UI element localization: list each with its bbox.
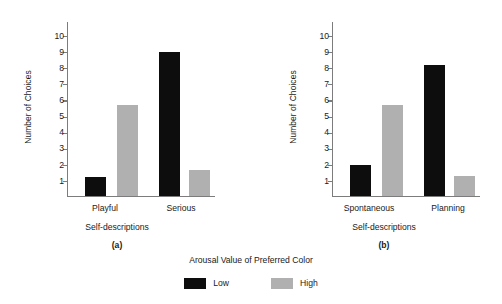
- panel-a-y-axis-line: [67, 22, 68, 197]
- panel-a-plot-area: 10 9 8 7 6 5 4 3 2 1: [67, 22, 215, 197]
- panel-b-x-axis-label: Self-descriptions: [279, 222, 489, 232]
- panel-a-yticklabel-8: 8: [42, 64, 64, 73]
- panel-a-yticklabel-4: 4: [42, 128, 64, 137]
- legend-item-high: High: [271, 278, 318, 289]
- panel-a-bar-serious-high: [189, 170, 210, 196]
- panel-a-y-axis-label: Number of Choices: [23, 37, 33, 177]
- panel-b-y-axis-label: Number of Choices: [288, 37, 298, 177]
- panel-b-bar-spontaneous-low: [350, 165, 371, 196]
- panel-b-yticklabel-5: 5: [307, 112, 329, 121]
- panel-a-yticklabel-7: 7: [42, 80, 64, 89]
- panel-a-yticklabel-2: 2: [42, 161, 64, 170]
- panel-a-yticklabel-1: 1: [42, 177, 64, 186]
- figure: Number of Choices 10 9 8 7 6 5: [0, 0, 502, 304]
- panel-a-yticklabel-6: 6: [42, 96, 64, 105]
- panel-a-yticklabel-3: 3: [42, 144, 64, 153]
- panel-b-plot-area: 10 9 8 7 6 5 4 3 2 1: [332, 22, 480, 197]
- panel-b-yticklabel-10: 10: [307, 32, 329, 41]
- legend-item-low: Low: [184, 278, 229, 289]
- panel-b-yticklabel-9: 9: [307, 48, 329, 57]
- panel-b-yticklabel-4: 4: [307, 128, 329, 137]
- panel-b-xticklabel-spontaneous: Spontaneous: [331, 203, 407, 213]
- panel-b-caption: (b): [279, 240, 489, 250]
- panel-a: Number of Choices 10 9 8 7 6 5: [0, 0, 251, 252]
- legend-swatch-high-icon: [271, 278, 293, 289]
- panel-a-bar-playful-high: [117, 105, 138, 195]
- panel-b-bar-planning-high: [454, 176, 475, 195]
- legend: Arousal Value of Preferred Color Low Hig…: [0, 255, 502, 304]
- panel-b-xticklabel-planning: Planning: [415, 203, 481, 213]
- panel-b-yticklabel-7: 7: [307, 80, 329, 89]
- panel-b-yticklabel-1: 1: [307, 177, 329, 186]
- legend-items: Low High: [0, 278, 502, 289]
- panel-b-yticklabel-2: 2: [307, 161, 329, 170]
- legend-label-high: High: [300, 279, 318, 288]
- panel-a-bar-serious-low: [159, 52, 180, 195]
- legend-title: Arousal Value of Preferred Color: [0, 255, 502, 265]
- panel-b-x-axis-line: [332, 196, 480, 197]
- panel-b-yticklabel-6: 6: [307, 96, 329, 105]
- panel-b-y-axis-line: [332, 22, 333, 197]
- panel-b-bar-spontaneous-high: [382, 105, 403, 195]
- panel-a-yticklabel-10: 10: [42, 32, 64, 41]
- panel-a-caption: (a): [12, 240, 222, 250]
- panel-b: Number of Choices 10 9 8 7 6 5: [251, 0, 502, 252]
- panel-b-yticklabel-8: 8: [307, 64, 329, 73]
- panel-b-yticklabel-3: 3: [307, 144, 329, 153]
- legend-label-low: Low: [213, 279, 229, 288]
- panel-a-xticklabel-playful: Playful: [72, 203, 138, 213]
- panel-b-bar-planning-low: [424, 65, 445, 195]
- panel-a-bar-playful-low: [85, 177, 106, 196]
- panel-a-xticklabel-serious: Serious: [148, 203, 214, 213]
- panel-a-x-axis-label: Self-descriptions: [12, 222, 222, 232]
- panels-row: Number of Choices 10 9 8 7 6 5: [0, 0, 502, 252]
- panel-a-x-axis-line: [67, 196, 215, 197]
- legend-swatch-low-icon: [184, 278, 206, 289]
- panel-a-yticklabel-9: 9: [42, 48, 64, 57]
- panel-a-yticklabel-5: 5: [42, 112, 64, 121]
